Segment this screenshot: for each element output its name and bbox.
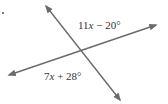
angle-top-const: 20° bbox=[105, 19, 120, 31]
angle-label-top: 11x − 20° bbox=[78, 20, 121, 31]
angle-bottom-op: + bbox=[54, 70, 66, 82]
angle-top-op: − bbox=[93, 19, 105, 31]
angle-bottom-const: 28° bbox=[66, 70, 81, 82]
intersecting-lines-diagram bbox=[0, 0, 168, 104]
angle-label-bottom: 7x + 28° bbox=[44, 71, 82, 82]
line-a bbox=[9, 25, 156, 75]
angle-top-coef: 11 bbox=[78, 19, 89, 31]
